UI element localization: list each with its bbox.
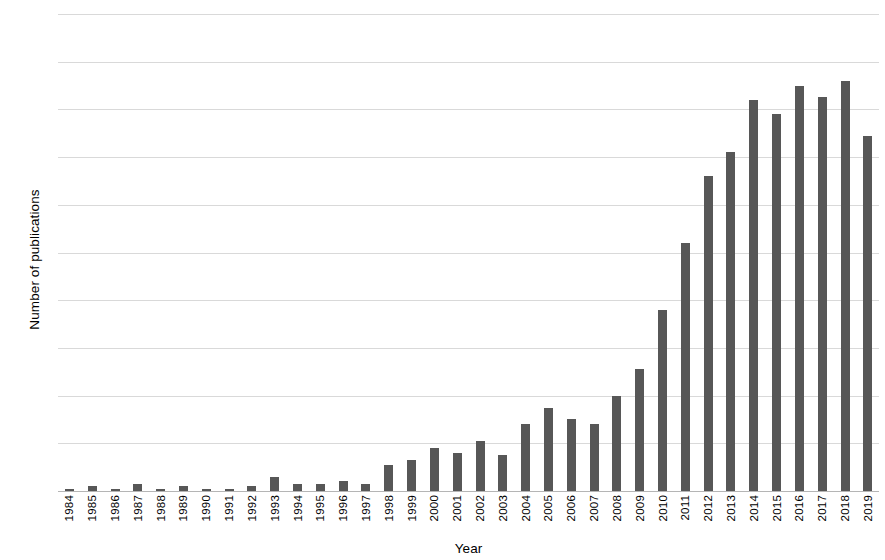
bar-1992 — [247, 486, 256, 491]
x-label-slot-1985: 1985 — [81, 494, 104, 542]
x-label-slot-2004: 2004 — [514, 494, 537, 542]
x-label-slot-1987: 1987 — [126, 494, 149, 542]
bar-2000 — [430, 448, 439, 491]
bar-slot-2015 — [765, 14, 788, 491]
bar-slot-2002 — [469, 14, 492, 491]
bar-2005 — [544, 408, 553, 491]
x-label-slot-1995: 1995 — [309, 494, 332, 542]
x-label-slot-1986: 1986 — [104, 494, 127, 542]
bar-slot-2009 — [628, 14, 651, 491]
x-axis-tick-1985: 1985 — [86, 495, 98, 521]
bar-slot-1994 — [286, 14, 309, 491]
x-axis-tick-1997: 1997 — [360, 495, 372, 521]
x-label-slot-2018: 2018 — [834, 494, 857, 542]
bar-1987 — [133, 484, 142, 491]
bar-1988 — [156, 489, 165, 491]
bar-2009 — [635, 369, 644, 491]
x-axis-tick-2003: 2003 — [497, 495, 509, 521]
x-axis-tick-2013: 2013 — [725, 495, 737, 521]
x-axis-tick-1987: 1987 — [132, 495, 144, 521]
bar-1985 — [88, 486, 97, 491]
x-axis-tick-2002: 2002 — [474, 495, 486, 521]
bar-1997 — [361, 484, 370, 491]
x-axis-tick-2019: 2019 — [862, 495, 874, 521]
x-axis-tick-2014: 2014 — [748, 495, 760, 521]
x-label-slot-2015: 2015 — [765, 494, 788, 542]
bar-slot-2011 — [674, 14, 697, 491]
bar-slot-2001 — [446, 14, 469, 491]
x-axis-tick-2015: 2015 — [771, 495, 783, 521]
bar-2008 — [612, 396, 621, 491]
bar-slot-2006 — [560, 14, 583, 491]
x-label-slot-2007: 2007 — [583, 494, 606, 542]
x-label-slot-2002: 2002 — [469, 494, 492, 542]
bar-slot-2013 — [720, 14, 743, 491]
x-label-slot-2011: 2011 — [674, 494, 697, 542]
bar-slot-1992 — [241, 14, 264, 491]
x-axis-tick-1984: 1984 — [63, 495, 75, 521]
bar-1999 — [407, 460, 416, 491]
x-label-slot-1989: 1989 — [172, 494, 195, 542]
bar-slot-1991 — [218, 14, 241, 491]
x-axis-tick-1990: 1990 — [200, 495, 212, 521]
x-label-slot-2010: 2010 — [651, 494, 674, 542]
x-label-slot-2003: 2003 — [491, 494, 514, 542]
x-axis-tick-2005: 2005 — [542, 495, 554, 521]
x-label-slot-1988: 1988 — [149, 494, 172, 542]
x-label-slot-1996: 1996 — [332, 494, 355, 542]
x-axis-tick-2007: 2007 — [588, 495, 600, 521]
x-label-slot-1992: 1992 — [241, 494, 264, 542]
bar-slot-2014 — [742, 14, 765, 491]
bar-1986 — [111, 489, 120, 491]
bar-2019 — [863, 136, 872, 491]
x-axis-tick-1998: 1998 — [383, 495, 395, 521]
bar-1984 — [65, 489, 74, 491]
x-label-slot-2009: 2009 — [628, 494, 651, 542]
bar-2004 — [521, 424, 530, 491]
bar-1998 — [384, 465, 393, 491]
x-label-slot-2019: 2019 — [856, 494, 879, 542]
x-label-slot-1991: 1991 — [218, 494, 241, 542]
x-axis-tick-2008: 2008 — [611, 495, 623, 521]
x-axis-tick-1992: 1992 — [246, 495, 258, 521]
x-label-slot-1993: 1993 — [263, 494, 286, 542]
bar-slot-2016 — [788, 14, 811, 491]
bar-slot-1996 — [332, 14, 355, 491]
x-axis-tick-1995: 1995 — [314, 495, 326, 521]
x-axis-tick-2000: 2000 — [428, 495, 440, 521]
x-axis-tick-1999: 1999 — [406, 495, 418, 521]
bar-slot-1999 — [400, 14, 423, 491]
bar-1991 — [225, 489, 234, 491]
y-axis-title: Number of publications — [27, 130, 42, 390]
bar-1996 — [339, 481, 348, 491]
bar-slot-2012 — [697, 14, 720, 491]
bar-slot-2000 — [423, 14, 446, 491]
x-axis-tick-labels: 1984198519861987198819891990199119921993… — [58, 494, 879, 542]
x-axis-tick-2001: 2001 — [451, 495, 463, 521]
bar-2015 — [772, 114, 781, 491]
bar-slot-2017 — [811, 14, 834, 491]
bar-slot-2007 — [583, 14, 606, 491]
bar-2001 — [453, 453, 462, 491]
gridline-0 — [58, 491, 879, 492]
bar-slot-1997 — [355, 14, 378, 491]
x-label-slot-2017: 2017 — [811, 494, 834, 542]
bar-slot-2003 — [491, 14, 514, 491]
x-label-slot-1997: 1997 — [355, 494, 378, 542]
bar-2003 — [498, 455, 507, 491]
x-axis-tick-2011: 2011 — [679, 495, 691, 521]
bar-2012 — [704, 176, 713, 491]
x-label-slot-1999: 1999 — [400, 494, 423, 542]
bar-slot-1990 — [195, 14, 218, 491]
bar-slot-1988 — [149, 14, 172, 491]
x-axis-tick-1993: 1993 — [269, 495, 281, 521]
x-label-slot-1990: 1990 — [195, 494, 218, 542]
publications-per-year-bar-chart: Number of publications 02040608010012014… — [0, 0, 885, 560]
bar-series — [58, 14, 879, 491]
bar-2016 — [795, 86, 804, 491]
bar-2013 — [726, 152, 735, 491]
bar-2006 — [567, 419, 576, 491]
bar-2002 — [476, 441, 485, 491]
bar-1989 — [179, 486, 188, 491]
x-axis-tick-2004: 2004 — [520, 495, 532, 521]
